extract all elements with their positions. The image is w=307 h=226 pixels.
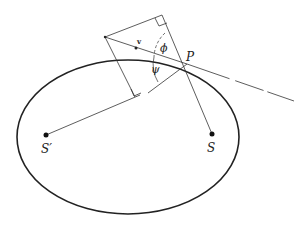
focus-right-dot	[210, 132, 215, 137]
tangent-line	[187, 64, 294, 101]
label-focus-right: S	[207, 141, 215, 155]
line-focus-right-to-corner	[162, 15, 212, 134]
focus-left-dot	[44, 133, 49, 138]
label-vector-v: v	[136, 37, 142, 46]
construction-line-left	[105, 37, 135, 97]
label-focus-left: S′	[41, 142, 52, 156]
velocity-dot	[135, 47, 138, 50]
label-angle-psi: ψ	[151, 63, 160, 76]
diagram-canvas: S′ S P ϕ ψ v	[0, 0, 307, 226]
label-angle-phi: ϕ	[160, 42, 168, 55]
construction-line-top	[105, 15, 162, 37]
corner-dot	[104, 36, 106, 38]
ellipse-diagram: S′ S P ϕ ψ v	[0, 0, 307, 226]
label-point-p: P	[185, 50, 195, 64]
line-focus-left-to-tangent	[46, 95, 140, 135]
